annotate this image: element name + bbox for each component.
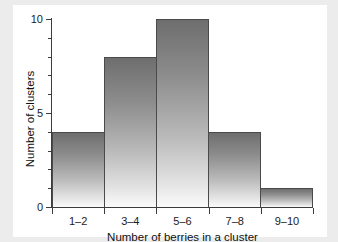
x-tick-label: 5–6 bbox=[156, 215, 208, 227]
bar-series bbox=[52, 19, 313, 207]
bar bbox=[156, 19, 209, 207]
y-tick-minor bbox=[48, 38, 52, 39]
y-tick-label: 0 bbox=[13, 201, 43, 213]
x-tick-label: 7–8 bbox=[209, 215, 261, 227]
y-tick-minor bbox=[48, 169, 52, 170]
x-tick-label: 1–2 bbox=[52, 215, 104, 227]
x-tick bbox=[156, 208, 157, 214]
bar bbox=[260, 188, 313, 207]
x-axis-title: Number of berries in a cluster bbox=[52, 231, 313, 242]
y-tick-minor bbox=[48, 94, 52, 95]
x-tick bbox=[52, 208, 53, 214]
x-tick-label: 3–4 bbox=[104, 215, 156, 227]
x-axis-spine bbox=[51, 207, 313, 208]
y-tick-minor bbox=[48, 57, 52, 58]
bar bbox=[52, 132, 105, 207]
y-tick-major bbox=[46, 19, 52, 20]
bar bbox=[104, 57, 157, 207]
y-tick-label: 10 bbox=[13, 13, 43, 25]
y-tick-minor bbox=[48, 151, 52, 152]
y-tick-minor bbox=[48, 132, 52, 133]
x-tick bbox=[261, 208, 262, 214]
y-tick-minor bbox=[48, 75, 52, 76]
y-tick-major bbox=[46, 113, 52, 114]
plot-area bbox=[52, 19, 313, 207]
y-tick-minor bbox=[48, 188, 52, 189]
x-tick bbox=[313, 208, 314, 214]
x-tick bbox=[209, 208, 210, 214]
bar bbox=[208, 132, 261, 207]
x-tick-label: 9–10 bbox=[261, 215, 313, 227]
y-axis-title: Number of clusters bbox=[24, 39, 36, 199]
x-axis-tick-labels: 1–23–45–67–89–10 bbox=[52, 215, 313, 227]
x-tick bbox=[104, 208, 105, 214]
figure: 0510 1–23–45–67–89–10 Number of berries … bbox=[13, 5, 327, 237]
